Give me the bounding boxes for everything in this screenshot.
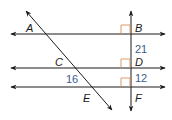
- point-label-F: F: [135, 92, 143, 104]
- point-label-E: E: [83, 92, 91, 104]
- line-ACE-transversal: [26, 11, 112, 110]
- point-label-C: C: [55, 56, 63, 68]
- measure-DF: 12: [135, 72, 147, 84]
- right-angle-icon-F: [121, 78, 130, 87]
- point-label-D: D: [135, 56, 143, 68]
- point-label-A: A: [25, 22, 33, 34]
- parallel-lines-diagram: A B C D E F 21 12 16: [0, 0, 172, 120]
- measure-CE: 16: [66, 73, 78, 85]
- point-label-B: B: [135, 22, 142, 34]
- right-angle-icon-D: [121, 59, 130, 68]
- measure-BD: 21: [135, 43, 147, 55]
- right-angle-icon-B: [121, 25, 130, 34]
